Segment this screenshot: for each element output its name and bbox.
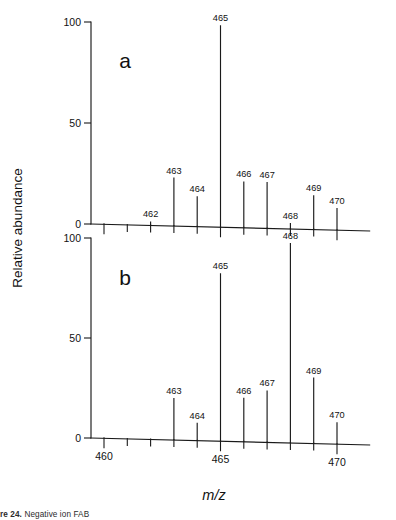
y-tick-label-b-100: 100 bbox=[63, 232, 81, 244]
peak-label-a-470: 470 bbox=[329, 196, 344, 206]
y-tick-label-b-50: 50 bbox=[69, 332, 81, 344]
peak-label-b-469: 469 bbox=[306, 366, 321, 376]
x-tick-label-460: 460 bbox=[95, 450, 113, 462]
peak-label-a-467: 467 bbox=[259, 170, 274, 180]
y-tick-label-a-50: 50 bbox=[69, 117, 81, 129]
peak-label-b-468: 468 bbox=[283, 231, 298, 241]
peak-label-a-463: 463 bbox=[166, 166, 181, 176]
x-axis-line-b bbox=[91, 438, 370, 445]
y-tick-label-b-0: 0 bbox=[75, 432, 81, 444]
x-axis-title: m/z bbox=[202, 487, 226, 503]
peak-label-a-465: 465 bbox=[213, 13, 228, 23]
panel-b: 050100460465470463464465466467468469470b bbox=[63, 231, 369, 468]
mass-spectrum-figure: Relative abundance 050100462463464465466… bbox=[0, 0, 396, 520]
caption-body: Negative ion FAB bbox=[24, 510, 89, 519]
y-axis-title: Relative abundance bbox=[10, 168, 25, 287]
panel-a: 050100462463464465466467468469470a bbox=[63, 13, 369, 240]
y-tick-label-a-100: 100 bbox=[63, 16, 81, 28]
peak-label-b-467: 467 bbox=[259, 378, 274, 388]
caption-number: re 24. bbox=[0, 510, 22, 519]
peak-label-a-464: 464 bbox=[190, 184, 205, 194]
x-tick-label-470: 470 bbox=[328, 456, 346, 468]
peak-label-a-462: 462 bbox=[143, 209, 158, 219]
peak-label-b-466: 466 bbox=[236, 386, 251, 396]
figure-caption: re 24. Negative ion FAB bbox=[0, 510, 396, 520]
panel-letter-a: a bbox=[119, 49, 131, 72]
y-tick-label-a-0: 0 bbox=[75, 218, 81, 230]
peak-label-a-469: 469 bbox=[306, 183, 321, 193]
spectrum-svg: Relative abundance 050100462463464465466… bbox=[0, 0, 396, 520]
peak-label-b-465: 465 bbox=[213, 261, 228, 271]
panel-letter-b: b bbox=[119, 266, 131, 289]
peak-label-a-468: 468 bbox=[283, 211, 298, 221]
x-tick-label-465: 465 bbox=[212, 453, 230, 465]
peak-label-b-464: 464 bbox=[190, 411, 205, 421]
peak-label-b-470: 470 bbox=[329, 410, 344, 420]
peak-label-a-466: 466 bbox=[236, 169, 251, 179]
x-axis-line-a bbox=[91, 224, 370, 231]
peak-label-b-463: 463 bbox=[166, 386, 181, 396]
